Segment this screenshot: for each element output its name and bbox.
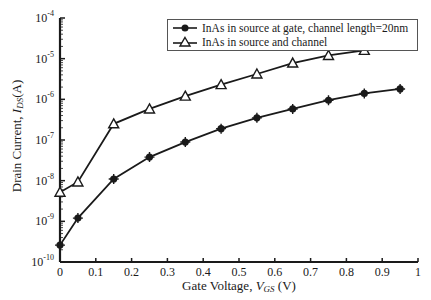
x-tick-label: 0.1	[88, 265, 103, 279]
legend: InAs in source at gate, channel length=2…	[167, 19, 418, 51]
star-marker-icon	[172, 22, 198, 34]
y-tick-label: 10-6	[35, 90, 54, 106]
y-axis-label: Drain Current, IDS(A)	[9, 41, 25, 231]
x-tick-label: 0	[57, 265, 63, 279]
y-tick-label: 10-9	[35, 212, 54, 228]
series-line-triangle	[60, 46, 400, 193]
triangle-marker-icon	[172, 36, 198, 48]
y-tick-label: 10-4	[35, 9, 54, 25]
data-point-triangle	[73, 177, 83, 186]
x-tick-label: 0.9	[375, 265, 390, 279]
legend-item-star: InAs in source at gate, channel length=2…	[172, 21, 408, 35]
x-tick-label: 0.4	[196, 265, 211, 279]
x-tick-label: 0.5	[232, 265, 247, 279]
y-tick-label: 10-10	[31, 253, 54, 269]
x-tick-label: 0.3	[160, 265, 175, 279]
data-point-triangle	[55, 187, 65, 196]
x-tick-label: 0.8	[339, 265, 354, 279]
x-tick-label: 0.6	[267, 265, 282, 279]
y-tick-label: 10-5	[35, 50, 54, 66]
legend-item-triangle: InAs in source and channel	[172, 35, 327, 49]
x-axis-label: Gate Voltage, VGS (V)	[60, 278, 418, 294]
x-tick-label: 0.7	[303, 265, 318, 279]
series-line-star	[60, 89, 400, 245]
y-tick-label: 10-7	[35, 131, 54, 147]
x-tick-label: 1	[415, 265, 421, 279]
y-tick-label: 10-8	[35, 172, 54, 188]
x-tick-label: 0.2	[124, 265, 139, 279]
